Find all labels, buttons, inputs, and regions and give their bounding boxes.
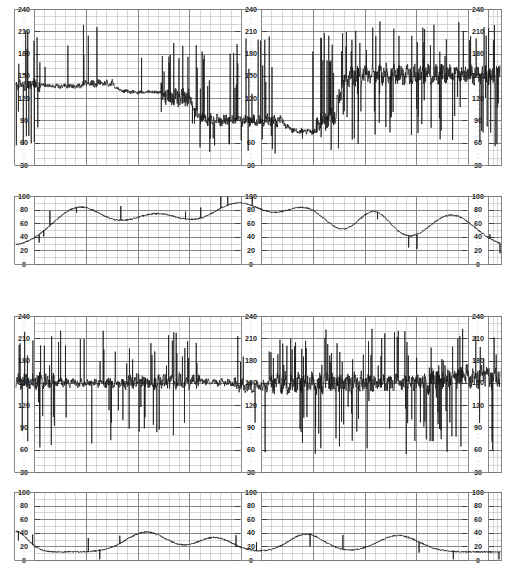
panel-fetal-heart-rate-upper: 3060901201501802102403060901201501802102… — [14, 6, 502, 174]
panel-uterine-activity-lower: 020406080100020406080100020406080100 — [14, 489, 502, 569]
plot-toco-bottom: 020406080100020406080100020406080100 — [14, 489, 502, 569]
plot-toco-top: 020406080100020406080100020406080100 — [14, 193, 502, 273]
panel-fetal-heart-rate-lower: 3060901201501802102403060901201501802102… — [14, 313, 502, 481]
ctg-chart-sheet: 3060901201501802102403060901201501802102… — [0, 0, 516, 579]
panel-uterine-activity-upper: 020406080100020406080100020406080100 — [14, 193, 502, 273]
plot-fhr-top: 3060901201501802102403060901201501802102… — [14, 6, 502, 174]
plot-fhr-bottom: 3060901201501802102403060901201501802102… — [14, 313, 502, 481]
